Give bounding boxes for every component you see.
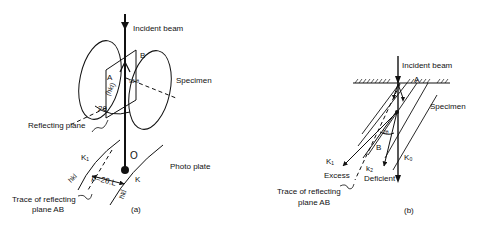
point-a-label-b: A (414, 75, 419, 84)
k0-label-b: K₀ (404, 153, 413, 162)
incident-beam-label-b: Incident beam (402, 61, 452, 70)
origin-o-label: O (130, 151, 138, 160)
incident-beam-label-a: Incident beam (133, 24, 183, 33)
point-b-label-a: B (140, 51, 145, 60)
k-label-a: K (135, 175, 140, 184)
specimen-label-b: Specimen (430, 102, 466, 111)
angle-2theta-label-a: 2θ (98, 104, 107, 113)
trace-label-b-line2: plane AB (298, 198, 330, 207)
angle-2theta-label-b: 2θ (383, 128, 389, 137)
k2-label-b: k₂ (366, 164, 373, 173)
caption-b: (b) (404, 206, 414, 215)
k1-excess-beam (343, 112, 397, 166)
cone-right (122, 47, 178, 134)
surface-hatching (355, 79, 448, 83)
excess-label: Excess (324, 171, 350, 180)
k1-label-a: K₁ (81, 153, 89, 162)
trace-label-a-line1: Trace of reflecting (12, 195, 76, 204)
beam-arrow-icon (121, 22, 129, 30)
diffraction-spot (121, 166, 129, 174)
photo-plate-label: Photo plate (170, 162, 210, 171)
point-b-label-b: B (376, 143, 381, 152)
reflecting-plane-label: Reflecting plane (28, 121, 85, 130)
panel-a-diagram (70, 14, 178, 205)
angle-90-theta-label: 90-θ (129, 77, 139, 86)
deficient-label: Deficient (364, 174, 395, 183)
diagram-canvas (0, 0, 486, 225)
specimen-label-a: Specimen (176, 76, 212, 85)
trace-label-a-line2: plane AB (32, 205, 64, 214)
k0-arrow-icon (395, 175, 401, 183)
caption-a: (a) (131, 205, 141, 214)
panel-b-diagram (340, 56, 450, 189)
trace-label-b-line1: Trace of reflecting (277, 187, 341, 196)
k1-label-b: K₁ (326, 157, 334, 166)
